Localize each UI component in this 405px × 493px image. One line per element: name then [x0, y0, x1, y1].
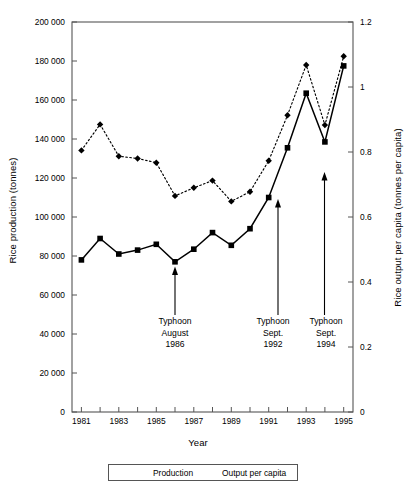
y-tick-label-80000: 80 000 — [13, 251, 65, 261]
y-tick-label-140000: 140 000 — [13, 134, 65, 144]
y-tick-label-160000: 160 000 — [13, 95, 65, 105]
rice-production-chart: Rice production (tonnes) Rice output per… — [0, 0, 405, 493]
y-tick-label-100000: 100 000 — [13, 212, 65, 222]
annotation-typhoon-1986-line-2: August — [145, 328, 205, 340]
annotation-typhoon-1994-line-1: Typhoon — [297, 316, 355, 328]
annotation-typhoon-1994-line-3: 1994 — [297, 339, 355, 351]
y2-tick-label-0: 0 — [360, 407, 400, 417]
per-capita-markers — [78, 53, 347, 205]
x-tick-label-1983: 1983 — [99, 416, 139, 426]
legend-inner: Production Output per capita — [109, 465, 297, 480]
arrow-typhoon-1986 — [172, 267, 178, 316]
right-axis-ticks — [348, 22, 353, 412]
annotation-typhoon-1986-line-1: Typhoon — [145, 316, 205, 328]
y2-tick-label-0-6: 0.6 — [360, 212, 400, 222]
left-axis-ticks — [72, 22, 77, 412]
annotation-typhoon-1992-line-2: Sept. — [244, 328, 302, 340]
x-tick-label-1989: 1989 — [211, 416, 251, 426]
x-tick-label-1993: 1993 — [286, 416, 326, 426]
annotation-typhoon-1994-line-2: Sept. — [297, 328, 355, 340]
legend-item-production: Production — [153, 468, 193, 478]
annotation-typhoon-1986: Typhoon August 1986 — [145, 316, 205, 351]
y-tick-label-40000: 40 000 — [13, 329, 65, 339]
x-tick-label-1985: 1985 — [136, 416, 176, 426]
y2-tick-label-1: 1 — [360, 82, 400, 92]
x-tick-label-1987: 1987 — [174, 416, 214, 426]
annotation-typhoon-1986-line-3: 1986 — [145, 339, 205, 351]
y-tick-label-180000: 180 000 — [13, 56, 65, 66]
y2-tick-label-0-2: 0.2 — [360, 342, 400, 352]
y2-tick-label-1-2: 1.2 — [360, 17, 400, 27]
y-tick-label-20000: 20 000 — [13, 368, 65, 378]
x-tick-label-1995: 1995 — [324, 416, 364, 426]
y2-tick-label-0-4: 0.4 — [360, 277, 400, 287]
annotation-typhoon-1992: Typhoon Sept. 1992 — [244, 316, 302, 351]
legend-item-output-per-capita: Output per capita — [222, 468, 286, 478]
arrow-typhoon-1994 — [322, 172, 328, 315]
annotation-typhoon-1992-line-3: 1992 — [244, 339, 302, 351]
x-axis-ticks — [81, 407, 343, 412]
y-axis-left-title: Rice production (tonnes) — [7, 121, 18, 301]
annotation-typhoon-1992-line-1: Typhoon — [244, 316, 302, 328]
x-tick-label-1991: 1991 — [249, 416, 289, 426]
series-production — [79, 63, 347, 265]
y2-tick-label-0-8: 0.8 — [360, 147, 400, 157]
y-tick-label-120000: 120 000 — [13, 173, 65, 183]
annotation-typhoon-1994: Typhoon Sept. 1994 — [297, 316, 355, 351]
x-tick-label-1981: 1981 — [61, 416, 101, 426]
production-markers — [79, 63, 347, 265]
arrow-typhoon-1992 — [275, 199, 281, 315]
y-tick-label-0: 0 — [13, 407, 65, 417]
x-axis-title: Year — [158, 437, 238, 448]
y-tick-label-60000: 60 000 — [13, 290, 65, 300]
series-output-per-capita — [78, 53, 347, 205]
chart-legend: Production Output per capita — [108, 464, 298, 481]
y-tick-label-200000: 200 000 — [13, 17, 65, 27]
